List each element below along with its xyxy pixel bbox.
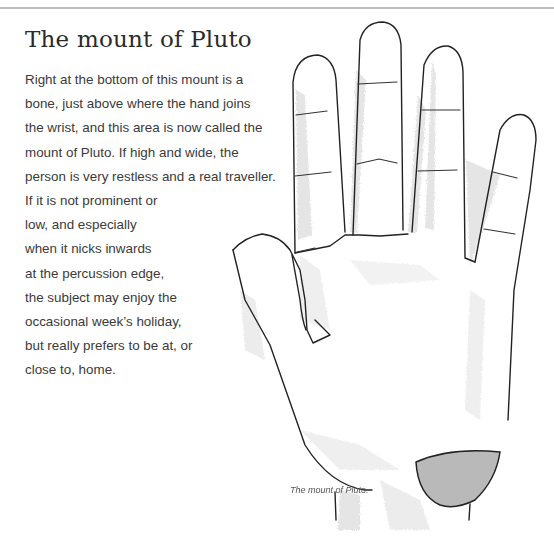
- body-line: the subject may enjoy the: [25, 286, 276, 310]
- page-title: The mount of Pluto: [25, 26, 252, 52]
- finger-creases: [295, 82, 517, 252]
- body-paragraph: Right at the bottom of this mount is a b…: [25, 68, 276, 383]
- top-divider: [0, 7, 554, 9]
- mount-of-pluto-highlight: [416, 451, 500, 507]
- hand-outline: [233, 22, 536, 520]
- body-line: the wrist, and this area is now called t…: [25, 116, 276, 140]
- figure-caption: The mount of Pluto.: [290, 485, 369, 495]
- body-line: at the percussion edge,: [25, 262, 276, 286]
- body-line: close to, home.: [25, 358, 276, 382]
- body-line: mount of Pluto. If high and wide, the: [25, 141, 276, 165]
- pencil-shading: [240, 60, 500, 530]
- body-line: occasional week’s holiday,: [25, 310, 276, 334]
- body-line: but really prefers to be at, or: [25, 334, 276, 358]
- body-line: If it is not prominent or: [25, 189, 276, 213]
- body-line: bone, just above where the hand joins: [25, 92, 276, 116]
- body-line: Right at the bottom of this mount is a: [25, 68, 276, 92]
- body-line: person is very restless and a real trave…: [25, 165, 276, 189]
- body-line: low, and especially: [25, 213, 276, 237]
- body-line: when it nicks inwards: [25, 237, 276, 261]
